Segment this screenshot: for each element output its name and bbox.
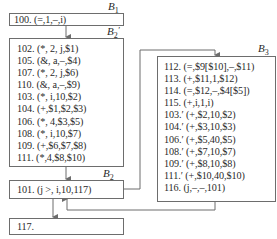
instruction: 115. (+,i,1,i)	[164, 97, 275, 109]
instruction: 106.′ (+,$5,40,$5)	[164, 134, 275, 146]
instruction: 117.	[17, 221, 123, 233]
instruction: 112. (=,$9[$10],–,$11)	[164, 61, 275, 73]
instruction: 104.′ (+,$3,10,$3)	[164, 121, 275, 133]
instruction: 113. (+,$11,1,$12)	[164, 73, 275, 85]
instruction: 108. (*, i,10,$7)	[17, 128, 123, 140]
instruction: 108.′ (+,$7,10,$7)	[164, 146, 275, 158]
instruction: 103. (*, i,10,$2)	[17, 91, 123, 103]
instruction: 111. (*,4,$8,$10)	[17, 152, 123, 164]
instruction: 109.′ (+,$8,10,$8)	[164, 158, 275, 170]
block-117: 117.	[9, 218, 124, 235]
instruction: 109. (+,$6,$7,$8)	[17, 140, 123, 152]
instruction: 105. (&, a,–,$4)	[17, 55, 123, 67]
instruction: 116. (j,–,–,101)	[164, 182, 275, 194]
instruction: 114. (=,$12,–,$4[$5])	[164, 85, 275, 97]
instruction: 111.′ (+,$10,40,$10)	[164, 170, 275, 182]
instruction: 107. (*, 2, j,$6)	[17, 67, 123, 79]
block-b3: 112. (=,$9[$10],–,$11) 113. (+,$11,1,$12…	[157, 56, 276, 202]
instruction: 101. (j >, i,10,117)	[17, 184, 123, 196]
instruction: 102. (*, 2, j,$1)	[17, 43, 123, 55]
instruction: 104. (+,$1,$2,$3)	[17, 103, 123, 115]
block-b2: 101. (j >, i,10,117)	[9, 180, 124, 199]
instruction: 110. (&, a,–,$9)	[17, 79, 123, 91]
block-b2prime: 102. (*, 2, j,$1) 105. (&, a,–,$4) 107. …	[9, 38, 124, 167]
instruction: 103.′ (+,$2,10,$2)	[164, 109, 275, 121]
block-label-b3: B3	[258, 42, 269, 57]
instruction: 106. (*, 4,$3,$5)	[17, 116, 123, 128]
